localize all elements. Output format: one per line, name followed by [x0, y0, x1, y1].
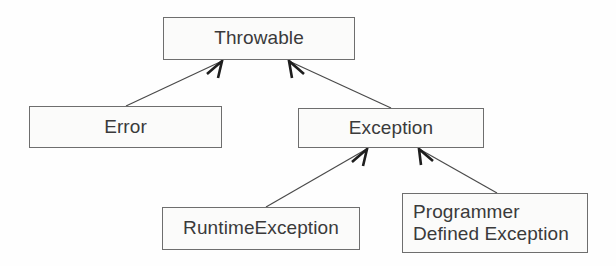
class-hierarchy-diagram: Throwable Error Exception RuntimeExcepti…	[0, 0, 616, 266]
node-programmer-defined-exception: Programmer Defined Exception	[402, 193, 588, 253]
node-exception-label: Exception	[299, 117, 483, 139]
node-throwable: Throwable	[163, 17, 355, 60]
node-throwable-label: Throwable	[164, 27, 354, 49]
edge-exception-to-throwable	[289, 61, 391, 108]
node-runtime-exception-label: RuntimeException	[163, 217, 359, 239]
edge-error-to-throwable	[126, 61, 222, 106]
edge-runtimeexception-to-exception	[266, 149, 367, 207]
node-error-label: Error	[30, 116, 221, 138]
node-runtime-exception: RuntimeException	[162, 207, 360, 250]
edge-programmerdefined-to-exception	[419, 149, 497, 193]
node-error: Error	[29, 106, 222, 148]
node-programmer-defined-exception-label: Programmer Defined Exception	[413, 201, 587, 246]
node-exception: Exception	[298, 108, 484, 148]
